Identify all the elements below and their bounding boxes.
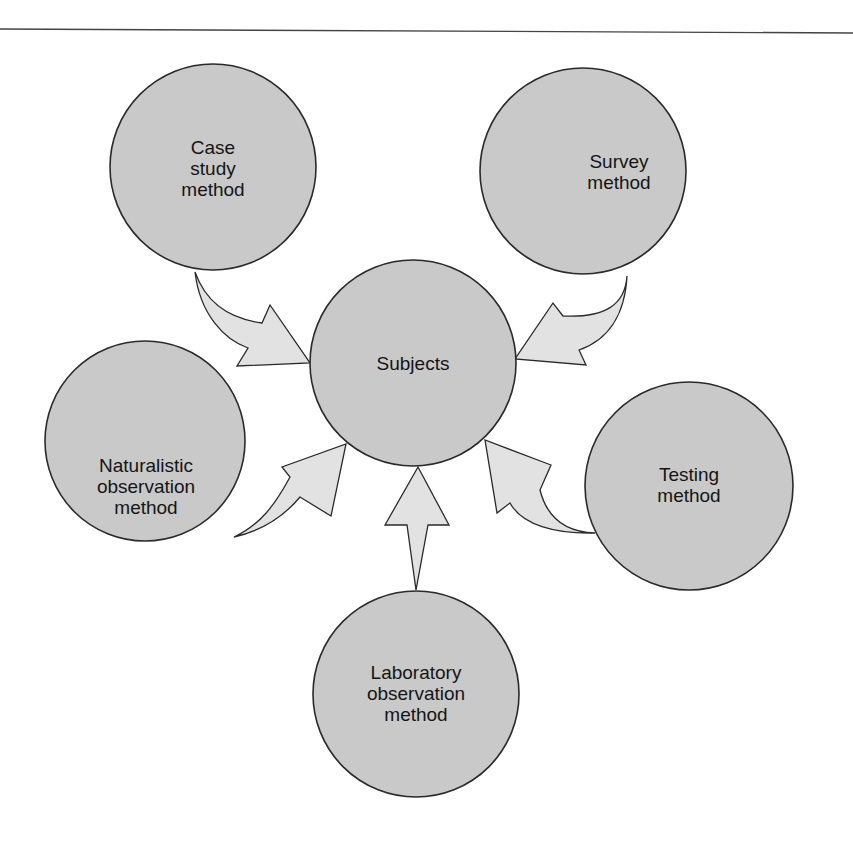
node-label: method <box>657 485 720 506</box>
node-label: Survey <box>589 151 649 172</box>
node-label: Laboratory <box>371 662 462 683</box>
node-case-study: Case study method <box>110 64 316 270</box>
top-rule <box>0 29 853 33</box>
node-label: observation <box>367 683 465 704</box>
node-label: method <box>384 704 447 725</box>
arrow-case-study-to-subjects <box>195 272 310 366</box>
node-naturalistic-observation: Naturalistic observation method <box>45 341 245 541</box>
node-label: Testing <box>659 464 719 485</box>
node-label: study <box>190 158 236 179</box>
node-label: Naturalistic <box>99 455 193 476</box>
node-label: Case <box>191 137 235 158</box>
node-label: observation <box>97 476 195 497</box>
node-laboratory-observation: Laboratory observation method <box>313 591 519 797</box>
arrow-laboratory-to-subjects <box>385 467 449 590</box>
node-label: method <box>181 179 244 200</box>
research-methods-diagram: Case study method Survey method Subjects… <box>0 0 853 841</box>
node-testing: Testing method <box>585 382 793 590</box>
arrow-survey-to-subjects <box>515 276 627 365</box>
node-subjects: Subjects <box>310 260 516 466</box>
node-label: method <box>114 497 177 518</box>
arrow-naturalistic-to-subjects <box>234 444 346 537</box>
center-label: Subjects <box>377 353 450 374</box>
node-label: method <box>587 172 650 193</box>
arrow-testing-to-subjects <box>485 440 595 533</box>
node-survey: Survey method <box>480 68 686 274</box>
